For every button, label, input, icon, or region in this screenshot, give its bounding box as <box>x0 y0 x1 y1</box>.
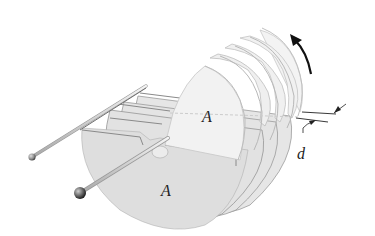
separation-label: d <box>297 145 306 162</box>
area-label-upper: A <box>201 108 212 125</box>
separation-marker <box>296 104 346 133</box>
variable-capacitor-diagram: A A d <box>0 0 375 236</box>
rotor-terminal-knob <box>74 187 86 199</box>
area-label-lower: A <box>160 182 171 199</box>
stator-terminal-knob <box>28 153 35 160</box>
